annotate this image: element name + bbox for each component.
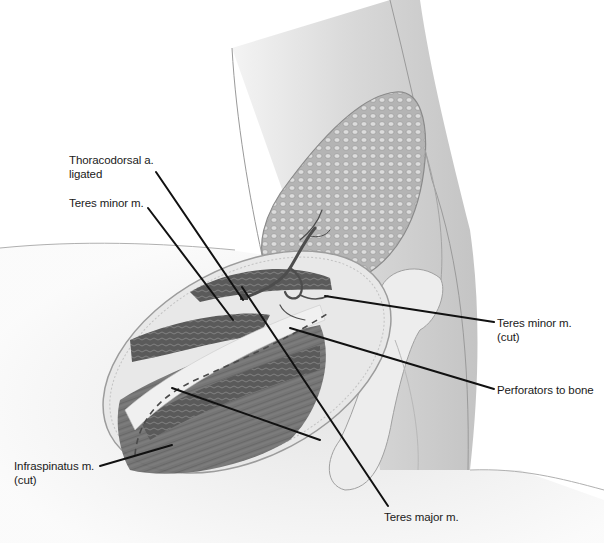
label-line: Perforators to bone [497,383,594,397]
label-line: Thoracodorsal a. [69,153,154,167]
label-thoracodorsal-artery: Thoracodorsal a. ligated [69,153,154,181]
label-teres-minor: Teres minor m. [69,196,144,210]
label-infraspinatus-cut: Infraspinatus m. (cut) [14,459,94,487]
label-line: ligated [69,167,154,181]
label-teres-minor-cut: Teres minor m. (cut) [497,316,572,344]
label-teres-major: Teres major m. [384,510,459,524]
label-line: Teres major m. [384,510,459,524]
label-line: Infraspinatus m. [14,459,94,473]
label-line: Teres minor m. [69,196,144,210]
label-line: (cut) [497,330,572,344]
label-line: (cut) [14,473,94,487]
label-line: Teres minor m. [497,316,572,330]
label-perforators-to-bone: Perforators to bone [497,383,594,397]
